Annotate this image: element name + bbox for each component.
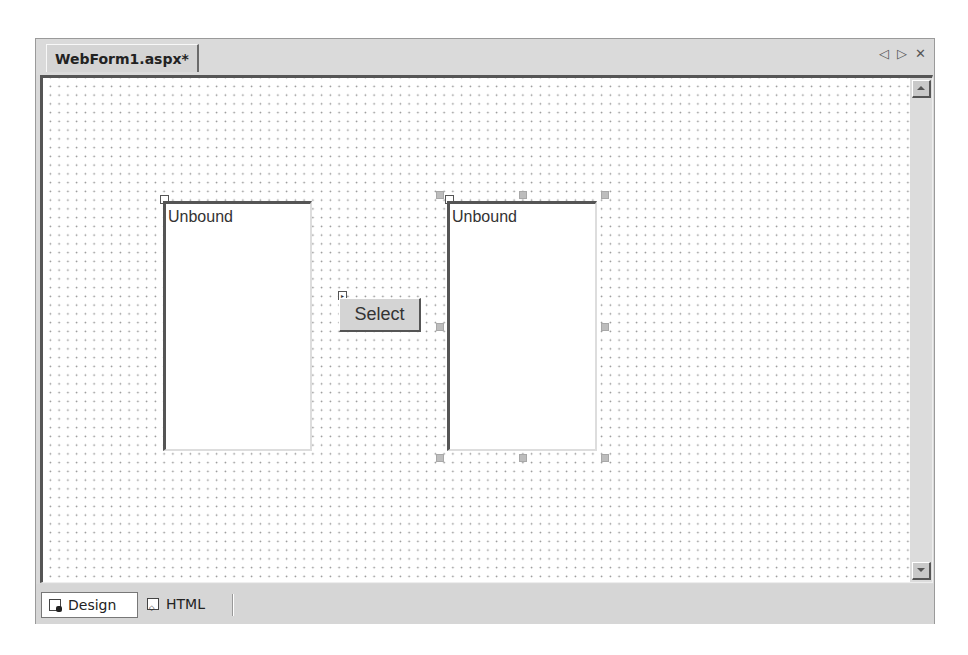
vertical-scrollbar[interactable] [910, 78, 932, 582]
select-button[interactable]: Select [339, 298, 421, 332]
resize-handle-se[interactable] [601, 454, 609, 462]
view-tabbar: Design HTML [36, 584, 934, 624]
resize-handle-nw[interactable] [436, 191, 444, 199]
resize-handle-e[interactable] [601, 323, 609, 331]
close-document-icon[interactable]: ✕ [915, 46, 926, 61]
listbox-left[interactable]: Unbound [163, 201, 312, 451]
resize-handle-s[interactable] [519, 454, 527, 462]
tab-html[interactable]: HTML [140, 592, 230, 618]
tab-html-label: HTML [166, 596, 205, 612]
scroll-up-button[interactable] [912, 80, 931, 98]
document-tabstrip: WebForm1.aspx* ◁ ▷ ✕ [36, 39, 934, 75]
tab-design[interactable]: Design [41, 592, 138, 618]
resize-handle-sw[interactable] [436, 454, 444, 462]
tabbar-separator [232, 594, 234, 616]
resize-handle-ne[interactable] [601, 191, 609, 199]
scroll-tabs-right-icon[interactable]: ▷ [897, 46, 907, 61]
document-tab-webform1[interactable]: WebForm1.aspx* [46, 44, 199, 72]
scroll-down-button[interactable] [912, 562, 931, 580]
designer-window: WebForm1.aspx* ◁ ▷ ✕ Unbound ▸ Select Un… [35, 38, 935, 624]
resize-handle-w[interactable] [436, 323, 444, 331]
tab-design-label: Design [68, 597, 116, 613]
listbox-left-text: Unbound [168, 208, 233, 225]
resize-handle-n[interactable] [519, 191, 527, 199]
html-view-icon [147, 598, 159, 610]
design-surface[interactable]: Unbound ▸ Select Unbound [40, 75, 933, 583]
listbox-right-text: Unbound [452, 208, 517, 225]
design-view-icon [49, 599, 61, 611]
scroll-tabs-left-icon[interactable]: ◁ [879, 46, 889, 61]
listbox-right[interactable]: Unbound [447, 201, 597, 451]
tab-controls: ◁ ▷ ✕ [879, 46, 926, 61]
